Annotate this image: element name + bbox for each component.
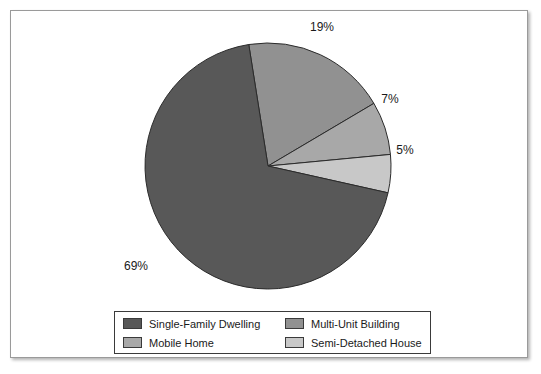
chart-frame: 19%7%5%69% Single-Family DwellingMulti-U…: [10, 10, 528, 358]
pie-chart-figure: 19%7%5%69% Single-Family DwellingMulti-U…: [0, 0, 541, 374]
pie-label-multi-unit-building: 19%: [310, 20, 334, 34]
legend-label-single-family-dwelling: Single-Family Dwelling: [149, 318, 260, 330]
legend-item-mobile-home[interactable]: Mobile Home: [115, 333, 277, 352]
pie-label-semi-detached-house: 5%: [396, 143, 414, 157]
legend-item-multi-unit-building[interactable]: Multi-Unit Building: [277, 314, 432, 333]
legend-swatch-multi-unit-building: [285, 318, 304, 329]
pie-slice-group: [145, 43, 391, 289]
legend-label-semi-detached-house: Semi-Detached House: [311, 337, 422, 349]
pie-chart-graphic: 19%7%5%69%: [11, 11, 529, 359]
chart-legend: Single-Family DwellingMulti-Unit Buildin…: [114, 311, 431, 354]
legend-item-single-family-dwelling[interactable]: Single-Family Dwelling: [115, 314, 277, 333]
pie-label-single-family-dwelling: 69%: [124, 259, 148, 273]
legend-swatch-semi-detached-house: [285, 337, 304, 348]
legend-swatch-mobile-home: [123, 337, 142, 348]
pie-label-mobile-home: 7%: [381, 92, 399, 106]
legend-label-mobile-home: Mobile Home: [149, 337, 214, 349]
legend-item-semi-detached-house[interactable]: Semi-Detached House: [277, 333, 432, 352]
legend-swatch-single-family-dwelling: [123, 318, 142, 329]
legend-label-multi-unit-building: Multi-Unit Building: [311, 318, 400, 330]
